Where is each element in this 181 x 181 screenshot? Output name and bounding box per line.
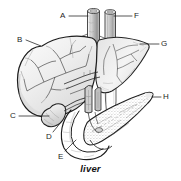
label-d: D <box>46 133 52 141</box>
liver-right-lobe <box>96 37 150 92</box>
pancreas <box>84 92 153 149</box>
label-f: F <box>134 12 139 20</box>
label-a: A <box>60 12 65 20</box>
label-c: C <box>10 112 16 120</box>
liver-illustration <box>0 0 181 181</box>
figure-caption: liver <box>0 163 181 174</box>
hepatic-duct <box>95 87 101 111</box>
common-bile-duct <box>85 85 92 113</box>
liver-anatomy-figure: A B C D E F G H liver <box>0 0 181 181</box>
label-g: G <box>161 40 167 48</box>
label-h: H <box>163 93 169 101</box>
label-e: E <box>58 153 63 161</box>
leader-line-B <box>26 40 41 46</box>
label-b: B <box>17 36 22 44</box>
